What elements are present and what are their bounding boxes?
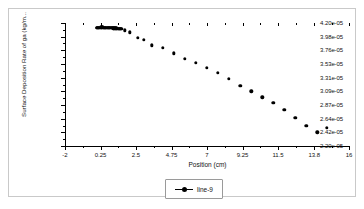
y-minor-tick-1 <box>63 43 65 44</box>
data-point <box>249 90 252 93</box>
x-top-minor-tick-4 <box>225 23 226 25</box>
x-minor-tick-4 <box>225 146 226 148</box>
x-minor-tick-6 <box>296 146 297 148</box>
x-tick-3 <box>172 146 173 150</box>
x-tick-label-8: 16 <box>346 152 353 158</box>
plot-area: 4.20e-053.98e-053.76e-053.53e-053.31e-05… <box>65 23 349 146</box>
data-point <box>128 31 131 34</box>
data-point <box>123 29 126 32</box>
y-tick-2 <box>61 50 65 51</box>
x-top-minor-tick-6 <box>296 23 297 25</box>
y-minor-tick-3 <box>63 71 65 72</box>
x-top-tick-6 <box>278 23 279 26</box>
y-minor-tick-5 <box>63 98 65 99</box>
x-top-tick-5 <box>243 23 244 26</box>
data-point <box>183 57 186 60</box>
x-top-minor-tick-5 <box>260 23 261 25</box>
data-point <box>261 96 264 99</box>
x-tick-label-3: 4.75 <box>166 152 178 158</box>
x-tick-label-4: 7 <box>205 152 208 158</box>
y-tick-1 <box>61 37 65 38</box>
y-tick-3 <box>61 64 65 65</box>
y-tick-8 <box>61 132 65 133</box>
x-tick-2 <box>136 146 137 150</box>
data-point <box>216 71 219 74</box>
x-tick-0 <box>65 146 66 150</box>
x-tick-4 <box>207 146 208 150</box>
y-tick-6 <box>61 105 65 106</box>
x-axis-title: Position (cm) <box>65 161 350 168</box>
y-tick-label-1: 3.98e-05 <box>320 34 343 40</box>
y-axis-title: Surface Deposition Rate of ga (kg/m... <box>20 3 27 127</box>
x-minor-tick-3 <box>189 146 190 148</box>
legend-marker-icon <box>175 186 193 192</box>
y-tick-label-7: 2.64e-05 <box>320 116 343 122</box>
x-tick-label-0: -2 <box>62 152 67 158</box>
y-tick-5 <box>61 91 65 92</box>
y-tick-label-5: 3.09e-05 <box>320 88 343 94</box>
y-minor-tick-0 <box>63 30 65 31</box>
x-top-minor-tick-2 <box>154 23 155 25</box>
data-point <box>161 46 164 49</box>
x-top-minor-tick-0 <box>83 23 84 25</box>
data-point <box>305 124 308 127</box>
y-tick-7 <box>61 119 65 120</box>
y-tick-label-3: 3.53e-05 <box>320 61 343 67</box>
x-minor-tick-5 <box>260 146 261 148</box>
x-top-tick-8 <box>349 23 350 26</box>
y-minor-tick-4 <box>63 85 65 86</box>
data-point <box>142 38 145 41</box>
x-top-minor-tick-7 <box>332 23 333 25</box>
figure-frame: 4.20e-053.98e-053.76e-053.53e-053.31e-05… <box>8 8 356 197</box>
data-point <box>316 131 319 134</box>
y-tick-label-4: 3.31e-05 <box>320 75 343 81</box>
data-point <box>272 101 275 104</box>
x-tick-5 <box>243 146 244 150</box>
x-top-minor-tick-3 <box>189 23 190 25</box>
x-top-tick-4 <box>207 23 208 26</box>
data-point <box>227 77 230 80</box>
legend-label: line-9 <box>197 186 213 193</box>
x-top-tick-2 <box>136 23 137 26</box>
data-point <box>150 43 153 46</box>
x-top-minor-tick-1 <box>118 23 119 25</box>
x-tick-label-1: 0.25 <box>95 152 107 158</box>
x-tick-6 <box>278 146 279 150</box>
x-top-tick-7 <box>314 23 315 26</box>
y-tick-4 <box>61 78 65 79</box>
x-top-tick-0 <box>65 23 66 26</box>
data-point <box>194 61 197 64</box>
data-point <box>294 116 297 119</box>
x-tick-label-6: 11.5 <box>272 152 283 158</box>
data-point <box>136 36 139 39</box>
x-top-tick-3 <box>172 23 173 26</box>
x-minor-tick-7 <box>332 146 333 148</box>
x-tick-label-2: 2.5 <box>132 152 140 158</box>
y-minor-tick-2 <box>63 57 65 58</box>
x-minor-tick-1 <box>118 146 119 148</box>
y-tick-label-2: 3.76e-05 <box>320 47 343 53</box>
data-point <box>172 51 175 54</box>
data-point <box>238 84 241 87</box>
x-minor-tick-2 <box>154 146 155 148</box>
x-tick-8 <box>349 146 350 150</box>
plot-wrapper: 4.20e-053.98e-053.76e-053.53e-053.31e-05… <box>9 9 357 198</box>
y-minor-tick-8 <box>63 139 65 140</box>
y-tick-label-6: 2.87e-05 <box>320 102 343 108</box>
data-point <box>283 108 286 111</box>
chart-legend[interactable]: line-9 <box>165 179 223 199</box>
x-tick-1 <box>101 146 102 150</box>
x-tick-7 <box>314 146 315 150</box>
y-minor-tick-6 <box>63 112 65 113</box>
data-point <box>205 66 208 69</box>
y-tick-label-8: 2.42e-05 <box>320 129 343 135</box>
x-tick-label-5: 9.25 <box>237 152 249 158</box>
x-minor-tick-0 <box>83 146 84 148</box>
x-tick-label-7: 13.8 <box>308 152 320 158</box>
y-minor-tick-7 <box>63 126 65 127</box>
